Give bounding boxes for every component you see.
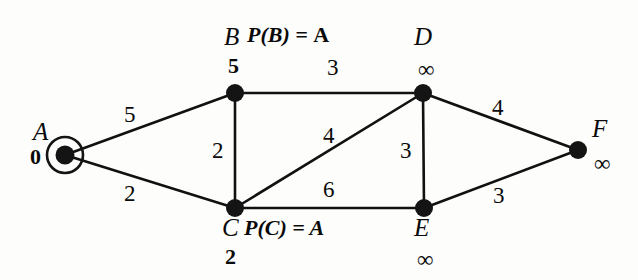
node-label-d: D — [414, 24, 432, 49]
node-label-c: C — [222, 215, 239, 240]
edge-weight-a-b: 5 — [124, 103, 136, 126]
graph-diagram: 523246343A0B5C2D∞E∞F∞P(B) = AP(C) = A — [0, 0, 638, 280]
node-distance-e: ∞ — [417, 248, 433, 271]
annotation-pred-b: P(B) = A — [247, 24, 329, 46]
node-d[interactable] — [414, 84, 432, 102]
node-distance-f: ∞ — [594, 152, 610, 175]
node-label-f: F — [592, 116, 607, 141]
node-distance-b: 5 — [228, 55, 239, 77]
edge-weight-c-e: 6 — [323, 178, 335, 201]
node-distance-d: ∞ — [418, 58, 434, 81]
edge-weight-b-c: 2 — [212, 139, 224, 162]
annotation-prefix-pred-b: P(B) = — [247, 22, 308, 47]
edge-weight-b-d: 3 — [327, 56, 339, 79]
edge-d-e — [423, 93, 424, 208]
node-distance-a: 0 — [30, 146, 41, 168]
node-label-b: B — [224, 24, 239, 49]
annotation-value-pred-b: A — [313, 22, 329, 47]
edge-a-b — [65, 93, 235, 155]
edge-weight-d-f: 4 — [492, 96, 504, 119]
edge-weight-e-f: 3 — [493, 184, 505, 207]
annotation-pred-c: P(C) = A — [244, 217, 324, 239]
node-f[interactable] — [569, 141, 587, 159]
annotation-prefix-pred-c: P(C) = — [244, 215, 305, 240]
node-b[interactable] — [226, 84, 244, 102]
node-label-a: A — [33, 119, 48, 144]
edge-weight-d-e: 3 — [400, 139, 412, 162]
edge-weight-c-d: 4 — [323, 124, 335, 147]
edge-weight-a-c: 2 — [124, 182, 136, 205]
node-a[interactable] — [56, 146, 75, 165]
edge-a-c — [65, 155, 235, 208]
annotation-value-pred-c: A — [310, 215, 325, 240]
node-distance-c: 2 — [225, 246, 236, 268]
node-label-e: E — [414, 215, 429, 240]
